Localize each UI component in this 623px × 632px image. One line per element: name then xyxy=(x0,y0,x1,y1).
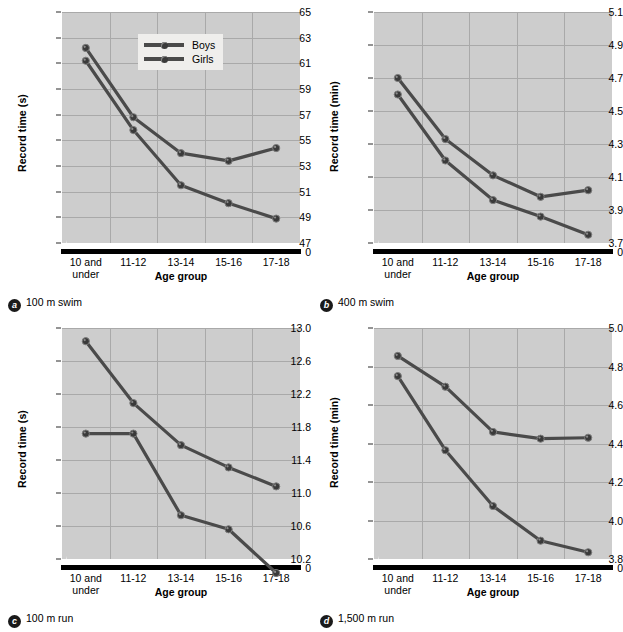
data-point-boys xyxy=(225,526,232,533)
data-point-girls xyxy=(489,428,496,435)
chart-panel-b: Record time (min)3.73.94.14.34.54.74.95.… xyxy=(312,0,623,316)
data-point-girls xyxy=(537,213,544,220)
data-point-girls xyxy=(225,464,232,471)
data-point-highlight xyxy=(179,183,181,185)
panel-badge-icon: d xyxy=(320,615,333,628)
data-point-boys xyxy=(82,44,89,51)
data-point-boys xyxy=(130,430,137,437)
data-point-girls xyxy=(537,435,544,442)
data-point-highlight xyxy=(226,159,228,161)
data-point-highlight xyxy=(586,436,588,438)
panel-badge-icon: b xyxy=(320,299,333,312)
data-point-highlight xyxy=(491,173,493,175)
chart-panel-d: Record time (min)3.84.04.24.44.64.85.001… xyxy=(312,316,623,632)
legend-label: Boys xyxy=(192,39,215,51)
data-point-boys xyxy=(273,144,280,151)
data-point-highlight xyxy=(131,128,133,130)
data-point-girls xyxy=(442,157,449,164)
data-point-highlight xyxy=(396,354,398,356)
data-point-girls xyxy=(225,200,232,207)
data-point-boys xyxy=(225,157,232,164)
data-point-highlight xyxy=(179,151,181,153)
data-point-boys xyxy=(585,187,592,194)
data-point-highlight xyxy=(131,115,133,117)
panel-caption-a: a100 m swim xyxy=(8,296,82,312)
data-point-highlight xyxy=(491,430,493,432)
data-point-girls xyxy=(585,231,592,238)
data-point-boys xyxy=(585,549,592,556)
data-point-boys xyxy=(489,502,496,509)
data-point-boys xyxy=(489,172,496,179)
data-point-girls xyxy=(130,126,137,133)
data-point-girls xyxy=(177,442,184,449)
data-point-boys xyxy=(177,512,184,519)
panel-caption-c: c100 m run xyxy=(8,612,73,628)
data-point-boys xyxy=(442,135,449,142)
panel-badge-icon: c xyxy=(8,615,21,628)
series-line-boys xyxy=(398,376,588,552)
data-point-boys xyxy=(394,373,401,380)
series-layer-d xyxy=(312,316,623,632)
data-point-highlight xyxy=(84,46,86,48)
data-point-boys xyxy=(130,114,137,121)
series-line-girls xyxy=(86,61,276,219)
data-point-girls xyxy=(82,57,89,64)
data-point-highlight xyxy=(179,513,181,515)
data-point-highlight xyxy=(226,201,228,203)
panel-caption-d: d1,500 m run xyxy=(320,612,394,628)
data-point-girls xyxy=(442,383,449,390)
data-point-highlight xyxy=(84,431,86,433)
data-point-highlight xyxy=(491,198,493,200)
data-point-boys xyxy=(82,430,89,437)
chart-panel-a: Record time (s)47495153555759616365010 a… xyxy=(0,0,311,316)
series-line-girls xyxy=(398,356,588,439)
data-point-boys xyxy=(273,569,280,576)
chart-panel-c: Record time (s)10.210.611.011.411.812.21… xyxy=(0,316,311,632)
data-point-highlight xyxy=(396,76,398,78)
data-point-girls xyxy=(394,91,401,98)
data-point-girls xyxy=(273,215,280,222)
data-point-girls xyxy=(82,338,89,345)
data-point-highlight xyxy=(396,92,398,94)
panel-caption-b: b400 m swim xyxy=(320,296,394,312)
data-point-girls xyxy=(585,434,592,441)
data-point-highlight xyxy=(443,448,445,450)
data-point-girls xyxy=(273,483,280,490)
data-point-girls xyxy=(489,197,496,204)
figure-root: Record time (s)47495153555759616365010 a… xyxy=(0,0,623,632)
data-point-highlight xyxy=(443,385,445,387)
data-point-highlight xyxy=(538,436,540,438)
data-point-boys xyxy=(537,193,544,200)
data-point-girls xyxy=(177,182,184,189)
data-point-highlight xyxy=(274,571,276,573)
legend-label: Girls xyxy=(192,53,214,65)
data-point-highlight xyxy=(131,401,133,403)
series-line-girls xyxy=(86,341,276,486)
data-point-highlight xyxy=(586,188,588,190)
data-point-highlight xyxy=(443,158,445,160)
legend: BoysGirls xyxy=(138,34,223,70)
data-point-highlight xyxy=(131,431,133,433)
data-point-highlight xyxy=(274,146,276,148)
legend-item-girls: Girls xyxy=(144,52,215,66)
data-point-girls xyxy=(130,399,137,406)
data-point-highlight xyxy=(274,216,276,218)
data-point-highlight xyxy=(538,214,540,216)
legend-item-boys: Boys xyxy=(144,38,215,52)
data-point-highlight xyxy=(586,233,588,235)
data-point-highlight xyxy=(586,550,588,552)
legend-swatch-icon xyxy=(144,57,184,61)
data-point-highlight xyxy=(538,195,540,197)
series-layer-b xyxy=(312,0,623,316)
data-point-boys xyxy=(537,537,544,544)
data-point-boys xyxy=(394,74,401,81)
data-point-girls xyxy=(394,352,401,359)
legend-swatch-icon xyxy=(144,43,184,47)
data-point-highlight xyxy=(538,539,540,541)
series-layer-c xyxy=(0,316,311,632)
data-point-boys xyxy=(177,150,184,157)
data-point-highlight xyxy=(84,59,86,61)
data-point-highlight xyxy=(179,443,181,445)
panel-badge-icon: a xyxy=(8,299,21,312)
data-point-highlight xyxy=(396,374,398,376)
